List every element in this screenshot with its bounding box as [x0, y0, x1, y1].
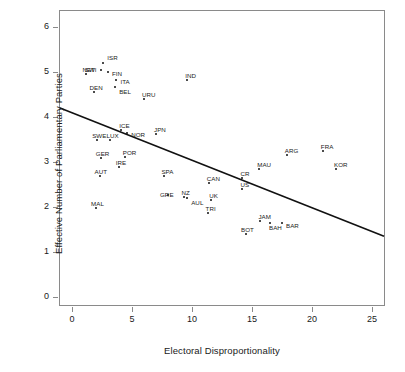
data-point-label: CR	[240, 170, 249, 177]
data-point	[281, 222, 283, 224]
data-point-label: JAM	[258, 213, 271, 220]
y-tick-label: 1	[33, 246, 49, 256]
x-tick-label: 5	[117, 314, 147, 324]
scatter-plot-figure: ISRSWINETFINITABELDENURUINDICENORJPNSWEL…	[0, 0, 405, 372]
data-point	[183, 196, 185, 198]
x-tick-mark	[372, 307, 373, 312]
data-point	[245, 233, 247, 235]
data-point-label: AUL	[191, 199, 203, 206]
data-point	[208, 182, 210, 184]
data-point-label: JPN	[154, 126, 166, 133]
data-point-label: ARG	[285, 147, 299, 154]
data-point-label: DEN	[90, 84, 103, 91]
x-tick-label: 20	[297, 314, 327, 324]
data-point-label: AUT	[95, 168, 108, 175]
data-point	[258, 168, 260, 170]
data-point-label: BAR	[286, 222, 299, 229]
data-point-label: GRE	[160, 191, 174, 198]
data-point-label: SWE	[92, 132, 106, 139]
y-axis-title: Effective Number of Parliamentary Partie…	[53, 16, 64, 312]
data-point-label: NOR	[131, 131, 145, 138]
data-point-label: KOR	[334, 161, 348, 168]
data-point	[207, 212, 209, 214]
data-point	[118, 166, 120, 168]
data-point	[120, 129, 122, 131]
data-point-label: CAN	[207, 175, 220, 182]
data-point-label: NET	[82, 66, 95, 73]
y-tick-label: 5	[33, 66, 49, 76]
x-tick-mark	[72, 307, 73, 312]
data-point	[124, 156, 126, 158]
data-point-label: URU	[142, 91, 156, 98]
data-point-label: MAL	[91, 200, 104, 207]
x-tick-label: 10	[177, 314, 207, 324]
x-tick-label: 25	[357, 314, 387, 324]
data-point-label: ITA	[120, 78, 129, 85]
data-point-label: TRI	[206, 205, 216, 212]
data-point	[126, 132, 128, 134]
data-point-label: US	[240, 181, 249, 188]
data-point-label: BEL	[119, 88, 131, 95]
data-point-label: FRA	[321, 143, 334, 150]
data-point-label: MAU	[257, 161, 271, 168]
data-point	[100, 69, 102, 71]
data-point	[143, 98, 145, 100]
data-point-label: GER	[96, 150, 110, 157]
data-point-label: SPA	[161, 168, 173, 175]
data-point	[93, 91, 95, 93]
x-tick-mark	[312, 307, 313, 312]
x-tick-label: 0	[57, 314, 87, 324]
x-tick-mark	[252, 307, 253, 312]
data-point	[322, 150, 324, 152]
data-point-label: IRE	[116, 159, 126, 166]
data-point-label: BAH	[269, 224, 282, 231]
data-point	[155, 133, 157, 135]
y-tick-label: 6	[33, 21, 49, 31]
data-point-label: UK	[209, 192, 218, 199]
data-point-label: ISR	[107, 54, 117, 61]
data-point-label: NZ	[182, 189, 190, 196]
data-point-label: POR	[123, 149, 137, 156]
data-point-label: BOT	[241, 226, 254, 233]
x-tick-mark	[192, 307, 193, 312]
x-axis-title: Electoral Disproportionality	[59, 345, 385, 356]
x-tick-label: 15	[237, 314, 267, 324]
x-tick-mark	[132, 307, 133, 312]
y-tick-label: 4	[33, 111, 49, 121]
data-point	[107, 71, 109, 73]
data-point-label: ICE	[119, 122, 129, 129]
data-point	[335, 168, 337, 170]
data-point-label: IND	[185, 72, 196, 79]
y-tick-label: 2	[33, 201, 49, 211]
data-point-label: FIN	[112, 70, 122, 77]
y-tick-label: 0	[33, 291, 49, 301]
data-point-label: LUX	[106, 132, 118, 139]
y-tick-label: 3	[33, 156, 49, 166]
data-point	[95, 207, 97, 209]
